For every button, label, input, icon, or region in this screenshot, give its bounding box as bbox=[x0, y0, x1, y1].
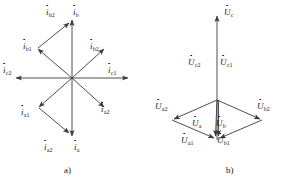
label-i-b2-top: ib2 bbox=[46, 8, 55, 17]
label-u-b1: Ub1 bbox=[217, 136, 230, 145]
label-u-c1: Uc1 bbox=[220, 58, 232, 67]
phasor-dot-icon bbox=[108, 63, 110, 65]
phasor-dot-icon bbox=[74, 140, 76, 142]
subscript: a bbox=[77, 147, 80, 153]
subscript: a1 bbox=[188, 140, 194, 146]
label-i-b: ib bbox=[73, 8, 79, 17]
subscript: c2 bbox=[6, 70, 12, 76]
label-u-a: Ua bbox=[192, 119, 201, 128]
phasor-dot-icon bbox=[259, 99, 261, 101]
label-u-c: Uc bbox=[224, 8, 233, 17]
phasor-dot-icon bbox=[226, 5, 228, 7]
subscript: b2 bbox=[264, 106, 270, 112]
phasor-dot-icon bbox=[222, 55, 224, 57]
phasor-dot-icon bbox=[183, 133, 185, 135]
label-u-b: Ub bbox=[216, 119, 226, 128]
symbol-u: U bbox=[220, 58, 227, 67]
subscript: a2 bbox=[47, 147, 53, 153]
symbol-u: U bbox=[257, 102, 264, 111]
label-u-a1: Ua1 bbox=[181, 136, 193, 145]
phasor-dot-icon bbox=[73, 5, 75, 7]
vector-i-b1 bbox=[38, 49, 72, 78]
phasor-dot-icon bbox=[46, 5, 48, 7]
symbol-u: U bbox=[216, 119, 223, 128]
subscript: b1 bbox=[26, 46, 32, 52]
phasor-dot-icon bbox=[190, 55, 192, 57]
label-i-a1: ia1 bbox=[21, 108, 29, 117]
label-u-b2: Ub2 bbox=[257, 102, 270, 111]
figure-canvas: ib2 ib ib1 ib2 ic2 ic1 ia1 ia2 ia2 ia Uc… bbox=[0, 0, 291, 189]
symbol-u: U bbox=[188, 58, 195, 67]
phasor-diagram-svg bbox=[0, 0, 291, 189]
symbol-u: U bbox=[224, 8, 231, 17]
vector-u-b2 bbox=[217, 100, 260, 119]
subscript: b2 bbox=[49, 12, 55, 18]
symbol-u: U bbox=[155, 102, 162, 111]
symbol-u: U bbox=[181, 136, 188, 145]
caption-b: b) bbox=[226, 165, 234, 175]
label-i-a2-bottom: ia2 bbox=[44, 143, 52, 152]
label-i-a: ia bbox=[74, 143, 79, 152]
panel-a-vectors bbox=[16, 20, 128, 136]
subscript: b bbox=[223, 123, 226, 129]
vector-i-a1 bbox=[39, 78, 72, 107]
subscript: b1 bbox=[224, 140, 230, 146]
vector-i-b2-right bbox=[72, 49, 104, 78]
phasor-dot-icon bbox=[44, 140, 46, 142]
subscript: c bbox=[231, 12, 234, 18]
subscript: a1 bbox=[24, 112, 30, 118]
phasor-dot-icon bbox=[3, 63, 5, 65]
vector-i-b2-upper bbox=[38, 23, 69, 48]
label-i-b1: ib1 bbox=[23, 42, 32, 51]
label-i-b2-right: ib2 bbox=[90, 42, 99, 51]
label-u-c2: Uc2 bbox=[188, 58, 200, 67]
subscript: b2 bbox=[93, 46, 99, 52]
caption-a: a) bbox=[64, 165, 71, 175]
label-i-c2: ic2 bbox=[3, 66, 11, 75]
subscript: a bbox=[199, 123, 202, 129]
phasor-dot-icon bbox=[21, 105, 23, 107]
subscript: a2 bbox=[104, 109, 110, 115]
subscript: b bbox=[76, 12, 79, 18]
symbol-u: U bbox=[192, 119, 199, 128]
phasor-dot-icon bbox=[101, 102, 103, 104]
phasor-dot-icon bbox=[219, 133, 221, 135]
subscript: a2 bbox=[162, 106, 168, 112]
vector-i-a2-right bbox=[72, 78, 104, 107]
label-i-a2-right: ia2 bbox=[101, 105, 109, 114]
subscript: c1 bbox=[111, 70, 117, 76]
subscript: c2 bbox=[195, 62, 201, 68]
phasor-dot-icon bbox=[90, 39, 92, 41]
phasor-dot-icon bbox=[157, 99, 159, 101]
phasor-dot-icon bbox=[194, 116, 196, 118]
phasor-dot-icon bbox=[23, 39, 25, 41]
label-u-a2: Ua2 bbox=[155, 102, 167, 111]
symbol-u: U bbox=[217, 136, 224, 145]
vector-i-a2-lower bbox=[39, 108, 69, 133]
subscript: c1 bbox=[227, 62, 233, 68]
phasor-dot-icon bbox=[218, 116, 220, 118]
label-i-c1: ic1 bbox=[108, 66, 116, 75]
